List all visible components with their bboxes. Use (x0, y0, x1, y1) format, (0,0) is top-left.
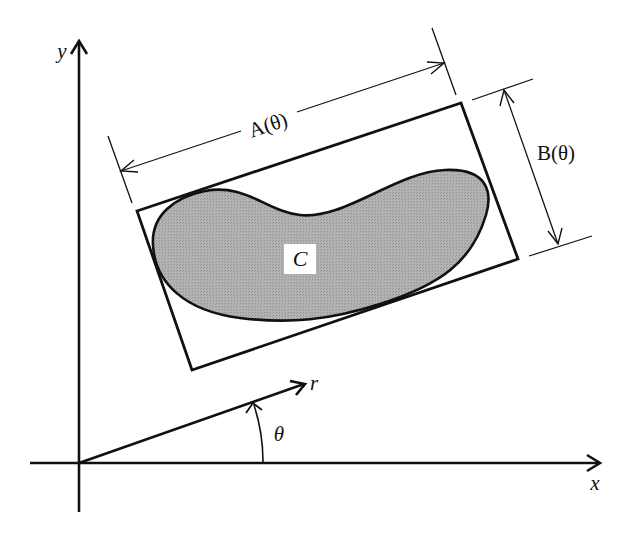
a-extension-left (108, 136, 132, 203)
region-c (153, 170, 489, 321)
angle-arc (254, 405, 263, 463)
ray-label: r (310, 371, 319, 395)
bounding-rectangle-diagram: x x C A(θ) B(θ) r θ y x (0, 0, 638, 534)
a-dimension-line-left (121, 131, 241, 171)
b-theta-label: B(θ) (537, 141, 575, 165)
x-axis (30, 455, 600, 471)
a-dimension-line-right (297, 63, 444, 112)
y-axis (71, 41, 87, 512)
region-label: C (293, 246, 308, 271)
b-extension-bottom (529, 236, 592, 256)
a-theta-label: A(θ) (246, 107, 291, 142)
angle-label: θ (274, 422, 284, 446)
y-axis-label: y (55, 39, 67, 63)
a-extension-right (432, 28, 456, 95)
x-axis-label: x (589, 471, 600, 495)
ray-r (79, 384, 304, 463)
b-dimension-line (504, 90, 558, 244)
